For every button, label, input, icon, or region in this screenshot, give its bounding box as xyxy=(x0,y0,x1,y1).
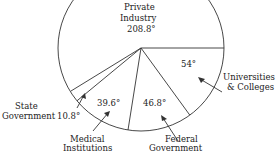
label-state-line1: State xyxy=(15,102,38,111)
label-medical-line2: Institutions xyxy=(63,144,112,152)
slice-boundary xyxy=(128,48,141,130)
value-federal: 46.8° xyxy=(143,99,166,108)
value-state: 10.8° xyxy=(57,112,80,121)
value-private: 208.8° xyxy=(127,25,156,34)
arrowhead-icon xyxy=(198,77,205,83)
slice-boundary xyxy=(77,48,141,101)
arrowhead-icon xyxy=(161,115,167,121)
arrow-medical xyxy=(93,113,108,131)
slice-boundary xyxy=(71,48,141,91)
arrow-universities xyxy=(200,79,222,92)
label-private-line2: Industry xyxy=(120,14,156,23)
label-universities-line2: & Colleges xyxy=(227,83,274,92)
label-universities-line1: Universities xyxy=(223,73,275,82)
label-state-line2: Government xyxy=(2,112,55,121)
label-private-line1: Private xyxy=(124,3,155,12)
value-medical: 39.6° xyxy=(97,99,120,108)
label-federal-line2: Government xyxy=(149,144,202,152)
value-universities: 54° xyxy=(181,60,196,69)
